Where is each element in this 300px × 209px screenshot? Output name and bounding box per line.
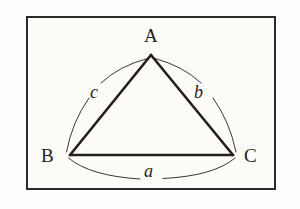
arc-side-a-right — [163, 158, 235, 179]
vertex-label-c: C — [244, 146, 257, 165]
vertex-label-b: B — [41, 146, 54, 165]
arc-side-b-upper — [155, 59, 201, 84]
side-label-a: a — [144, 162, 153, 180]
triangle-side-ab — [70, 55, 151, 155]
vertex-label-a: A — [144, 26, 158, 45]
figure-root: A B C a b c — [0, 0, 300, 209]
triangle-side-ac — [151, 55, 233, 155]
side-label-b: b — [194, 83, 203, 101]
arc-side-c-upper — [101, 59, 148, 84]
arc-side-a-left — [69, 158, 141, 179]
side-label-c: c — [90, 83, 98, 101]
